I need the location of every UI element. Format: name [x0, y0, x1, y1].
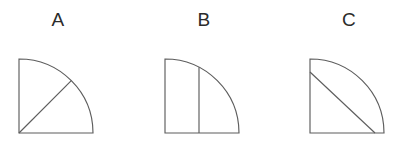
- figure-c-diagram: [299, 54, 399, 149]
- quarter-circle-outline-b: [165, 59, 239, 133]
- figure-b-diagram: [154, 54, 254, 149]
- figure-c-label: C: [299, 8, 399, 32]
- figure-b-group: B: [154, 0, 254, 151]
- diagonal-chord-divider-line-c: [310, 72, 375, 133]
- figure-a-label: A: [8, 8, 108, 32]
- radius-divider-line-a: [19, 81, 71, 133]
- figure-a-diagram: [8, 54, 108, 149]
- quarter-circle-outline-c: [310, 59, 384, 133]
- figure-a-group: A: [8, 0, 108, 151]
- figure-c-group: C: [299, 0, 399, 151]
- figure-b-label: B: [154, 8, 254, 32]
- figure-board: A B C: [0, 0, 407, 151]
